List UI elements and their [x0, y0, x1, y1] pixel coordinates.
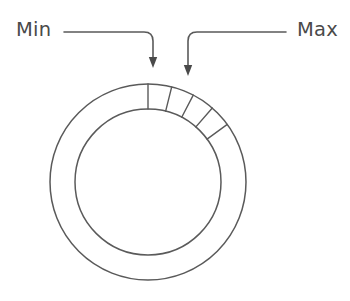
- ring-tick-4: [207, 124, 227, 139]
- ring-group: [50, 84, 246, 280]
- max-annotation: Max: [184, 18, 338, 76]
- min-arrow-icon: [149, 57, 157, 68]
- diagram-canvas: Min Max: [0, 0, 350, 301]
- max-arrow-icon: [184, 65, 192, 76]
- ring-tick-3: [196, 108, 212, 127]
- ring-outer-circle: [50, 84, 246, 280]
- ring-tick-1: [166, 87, 172, 111]
- min-label: Min: [16, 18, 51, 41]
- max-leader-line: [188, 32, 286, 67]
- min-leader-line: [64, 32, 153, 59]
- ring-inner-circle: [75, 109, 221, 255]
- max-label: Max: [297, 18, 338, 41]
- min-annotation: Min: [16, 18, 157, 68]
- ring-min-max-diagram: Min Max: [0, 0, 350, 301]
- ring-tick-2: [182, 95, 194, 117]
